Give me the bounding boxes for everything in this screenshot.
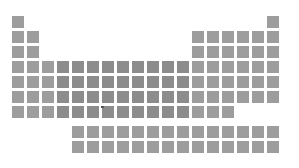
- element-cell: [72, 61, 84, 73]
- element-cell: [87, 106, 99, 118]
- element-cell: [147, 76, 159, 88]
- fblock-cell: [147, 141, 159, 153]
- fblock-cell: [132, 126, 144, 138]
- fblock-cell: [102, 141, 114, 153]
- element-cell: [267, 61, 279, 73]
- element-cell: [27, 91, 39, 103]
- element-cell: [72, 76, 84, 88]
- element-cell: [177, 106, 189, 118]
- element-cell: [237, 91, 249, 103]
- fblock-cell: [87, 126, 99, 138]
- element-cell: [102, 76, 114, 88]
- element-cell: [117, 91, 129, 103]
- element-cell: [252, 76, 264, 88]
- element-cell: [222, 61, 234, 73]
- fblock-cell: [177, 141, 189, 153]
- element-cell: [192, 76, 204, 88]
- element-cell: [252, 91, 264, 103]
- fblock-cell: [72, 141, 84, 153]
- element-cell: [267, 76, 279, 88]
- fblock-cell: [102, 126, 114, 138]
- fblock-cell: [117, 126, 129, 138]
- fblock-cell: [207, 141, 219, 153]
- element-cell: [162, 91, 174, 103]
- element-cell: [42, 61, 54, 73]
- element-cell: [177, 61, 189, 73]
- element-cell: [12, 46, 24, 58]
- element-cell: [12, 76, 24, 88]
- element-cell: [132, 76, 144, 88]
- element-cell: [72, 91, 84, 103]
- element-cell: [192, 61, 204, 73]
- element-cell: [207, 76, 219, 88]
- fblock-cell: [132, 141, 144, 153]
- element-cell: [177, 76, 189, 88]
- element-cell: [192, 46, 204, 58]
- element-cell: [192, 106, 204, 118]
- element-cell: [192, 31, 204, 43]
- element-cell: [87, 91, 99, 103]
- element-cell: [192, 91, 204, 103]
- fblock-cell: [162, 141, 174, 153]
- element-cell: [12, 31, 24, 43]
- element-cell: [42, 76, 54, 88]
- element-cell: [12, 61, 24, 73]
- fblock-cell: [237, 141, 249, 153]
- fblock-cell: [87, 141, 99, 153]
- element-cell: [207, 46, 219, 58]
- fblock-cell: [237, 126, 249, 138]
- element-cell: [222, 46, 234, 58]
- element-cell: [27, 106, 39, 118]
- element-cell: [252, 61, 264, 73]
- element-cell: [57, 91, 69, 103]
- element-cell: [12, 91, 24, 103]
- artifact-speck: [101, 106, 104, 108]
- element-cell: [102, 61, 114, 73]
- element-cell: [207, 31, 219, 43]
- element-cell: [27, 46, 39, 58]
- fblock-cell: [222, 126, 234, 138]
- fblock-cell: [222, 141, 234, 153]
- element-cell: [87, 61, 99, 73]
- element-cell: [117, 106, 129, 118]
- element-cell: [162, 76, 174, 88]
- element-cell: [57, 106, 69, 118]
- element-cell: [132, 91, 144, 103]
- element-cell: [42, 106, 54, 118]
- element-cell: [42, 91, 54, 103]
- element-cell: [57, 76, 69, 88]
- element-cell: [252, 46, 264, 58]
- fblock-cell: [252, 126, 264, 138]
- fblock-cell: [207, 126, 219, 138]
- element-cell: [147, 106, 159, 118]
- element-cell: [222, 91, 234, 103]
- element-cell: [12, 16, 24, 28]
- fblock-cell: [267, 141, 279, 153]
- element-cell: [267, 31, 279, 43]
- element-cell: [57, 61, 69, 73]
- element-cell: [87, 76, 99, 88]
- periodic-table-grid: [0, 0, 299, 168]
- element-cell: [237, 61, 249, 73]
- fblock-cell: [177, 126, 189, 138]
- element-cell: [207, 61, 219, 73]
- element-cell: [117, 76, 129, 88]
- element-cell: [267, 91, 279, 103]
- element-cell: [252, 31, 264, 43]
- fblock-cell: [192, 141, 204, 153]
- element-cell: [147, 61, 159, 73]
- element-cell: [27, 76, 39, 88]
- fblock-cell: [72, 126, 84, 138]
- fblock-cell: [267, 126, 279, 138]
- element-cell: [207, 106, 219, 118]
- element-cell: [267, 46, 279, 58]
- fblock-cell: [162, 126, 174, 138]
- element-cell: [237, 46, 249, 58]
- fblock-cell: [147, 126, 159, 138]
- element-cell: [237, 31, 249, 43]
- element-cell: [102, 91, 114, 103]
- element-cell: [207, 91, 219, 103]
- element-cell: [162, 106, 174, 118]
- element-cell: [267, 16, 279, 28]
- element-cell: [222, 31, 234, 43]
